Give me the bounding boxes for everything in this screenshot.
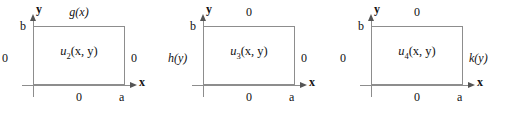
interior-args: (x, y)	[71, 44, 98, 58]
x-axis-line	[360, 85, 471, 86]
x-axis-line	[22, 85, 133, 86]
boundary-label-bottom: 0	[338, 91, 496, 103]
panel-u3: y x b a 0 0 h(y) 0 u3(x, y)	[170, 0, 338, 115]
interior-args: (x, y)	[241, 44, 268, 58]
boundary-label-top: 0	[338, 6, 496, 18]
boundary-label-bottom: 0	[0, 91, 158, 103]
y-tick-label-b: b	[20, 20, 26, 32]
boundary-label-left: 0	[2, 52, 8, 64]
x-axis-label: x	[477, 76, 483, 88]
boundary-label-right: k(y)	[469, 52, 488, 64]
boundary-label-right: 0	[131, 52, 137, 64]
boundary-label-left: 0	[340, 52, 346, 64]
x-axis-arrow-icon	[300, 82, 307, 88]
x-axis-label: x	[139, 76, 145, 88]
boundary-label-top: g(x)	[0, 6, 158, 18]
boundary-label-right: 0	[301, 52, 307, 64]
boundary-label-left: h(y)	[168, 52, 187, 64]
y-tick-label-b: b	[358, 20, 364, 32]
interior-function-label: u2(x, y)	[33, 45, 125, 60]
boundary-label-bottom: 0	[170, 91, 328, 103]
boundary-label-top: 0	[170, 6, 328, 18]
x-axis-arrow-icon	[130, 82, 137, 88]
y-tick-label-b: b	[190, 20, 196, 32]
x-axis-arrow-icon	[468, 82, 475, 88]
x-axis-label: x	[309, 76, 315, 88]
figure-canvas: y x b a g(x) 0 0 0 u2(x, y) y x b a 0 0 …	[0, 0, 505, 115]
interior-function-label: u4(x, y)	[371, 45, 463, 60]
interior-function-label: u3(x, y)	[203, 45, 295, 60]
panel-u4: y x b a 0 0 0 k(y) u4(x, y)	[338, 0, 505, 115]
panel-u2: y x b a g(x) 0 0 0 u2(x, y)	[0, 0, 168, 115]
x-axis-line	[192, 85, 303, 86]
interior-args: (x, y)	[409, 44, 436, 58]
